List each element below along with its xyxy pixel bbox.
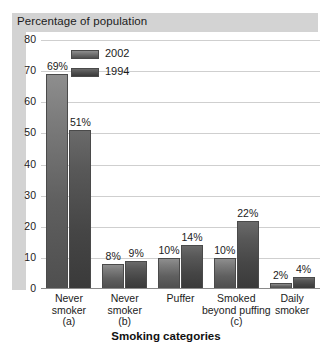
bar-2002-1 [102,264,124,289]
chart-figure: Percentage of population 010203040506070… [0,0,332,352]
plot-area: 69%8%10%10%2%51%9%14%22%4% [41,40,320,289]
y-tick-label: 60 [12,95,36,107]
legend-label: 2002 [105,47,129,59]
x-axis-title: Smoking categories [0,330,332,342]
y-tick-label: 30 [12,189,36,201]
legend-swatch-icon [71,68,99,77]
bar-2002-0 [46,74,68,289]
bar-1994-0 [69,130,91,289]
y-tick-label: 50 [12,126,36,138]
bar-value-label: 4% [289,263,319,275]
bar-value-label: 51% [65,116,95,128]
bar-value-label: 69% [42,60,72,72]
gridline [41,102,320,103]
bar-2002-2 [158,258,180,289]
bar-value-label: 10% [210,244,240,256]
y-tick-label: 10 [12,251,36,263]
bar-value-label: 9% [121,247,151,259]
bar-1994-3 [237,221,259,289]
x-tick-label-4: Dailysmoker [252,293,332,316]
bar-1994-1 [125,261,147,289]
bar-value-label: 14% [177,231,207,243]
legend-label: 1994 [105,65,129,77]
y-tick-label: 80 [12,33,36,45]
bar-1994-2 [181,245,203,289]
legend-swatch-icon [71,50,99,59]
bar-value-label: 22% [233,207,263,219]
y-tick-label: 40 [12,158,36,170]
y-tick-label: 20 [12,220,36,232]
bar-2002-3 [214,258,236,289]
x-axis-baseline [41,288,320,289]
gridline [41,40,320,41]
y-tick-label: 70 [12,64,36,76]
bar-value-label: 10% [154,244,184,256]
chart-title: Percentage of population [17,15,147,27]
